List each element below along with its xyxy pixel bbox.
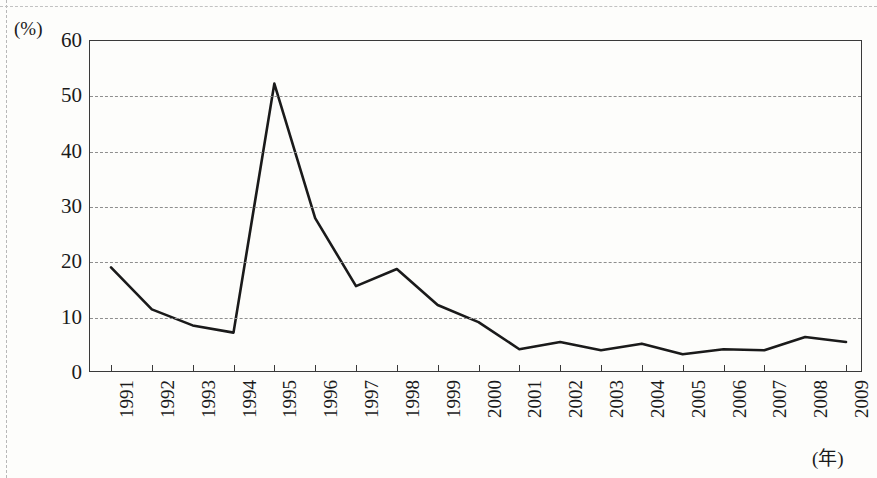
y-tick-label-30: 30 xyxy=(36,196,82,217)
x-tick-label-2004: 2004 xyxy=(648,380,667,418)
chart-page: (%) (年) 6050403020100 199119921993199419… xyxy=(0,0,877,478)
x-tick-label-1999: 1999 xyxy=(444,380,463,418)
gridline-20 xyxy=(90,262,861,263)
x-axis-unit-label: (年) xyxy=(812,443,844,470)
x-tick-label-2000: 2000 xyxy=(485,380,504,418)
y-tick-label-50: 50 xyxy=(36,85,82,106)
y-tick-label-0: 0 xyxy=(36,362,82,383)
x-tick-label-1992: 1992 xyxy=(158,380,177,418)
x-tick-2003 xyxy=(601,365,602,371)
x-tick-label-1997: 1997 xyxy=(362,380,381,418)
x-tick-label-1993: 1993 xyxy=(199,380,218,418)
x-tick-1992 xyxy=(152,365,153,371)
gridline-40 xyxy=(90,152,861,153)
x-tick-1991 xyxy=(111,365,112,371)
x-tick-label-1998: 1998 xyxy=(403,380,422,418)
plot-area xyxy=(89,40,862,372)
x-tick-label-1994: 1994 xyxy=(240,380,259,418)
y-tick-label-40: 40 xyxy=(36,140,82,161)
y-axis-tick-labels: 6050403020100 xyxy=(32,40,82,372)
x-tick-label-2003: 2003 xyxy=(607,380,626,418)
x-tick-label-1996: 1996 xyxy=(321,380,340,418)
x-tick-1993 xyxy=(193,365,194,371)
x-tick-label-1995: 1995 xyxy=(280,380,299,418)
y-tick-label-20: 20 xyxy=(36,251,82,272)
x-tick-label-2007: 2007 xyxy=(770,380,789,418)
x-tick-2006 xyxy=(724,365,725,371)
x-tick-1995 xyxy=(274,365,275,371)
x-tick-label-2006: 2006 xyxy=(730,380,749,418)
x-tick-label-1991: 1991 xyxy=(117,380,136,418)
x-tick-2001 xyxy=(519,365,520,371)
y-tick-label-10: 10 xyxy=(36,306,82,327)
x-tick-1996 xyxy=(315,365,316,371)
x-tick-label-2008: 2008 xyxy=(811,380,830,418)
x-tick-1998 xyxy=(397,365,398,371)
x-tick-label-2009: 2009 xyxy=(852,380,871,418)
scan-edge-top xyxy=(0,6,877,7)
x-tick-2005 xyxy=(683,365,684,371)
y-tick-label-60: 60 xyxy=(36,30,82,51)
gridline-50 xyxy=(90,96,861,97)
x-tick-2000 xyxy=(479,365,480,371)
gridline-10 xyxy=(90,318,861,319)
scan-edge-left xyxy=(6,0,7,478)
gridline-30 xyxy=(90,207,861,208)
x-tick-1994 xyxy=(234,365,235,371)
x-tick-2004 xyxy=(642,365,643,371)
x-tick-1997 xyxy=(356,365,357,371)
x-tick-label-2002: 2002 xyxy=(566,380,585,418)
x-tick-2008 xyxy=(805,365,806,371)
x-tick-2009 xyxy=(846,365,847,371)
x-tick-1999 xyxy=(438,365,439,371)
x-tick-2007 xyxy=(764,365,765,371)
x-tick-label-2001: 2001 xyxy=(525,380,544,418)
x-tick-2002 xyxy=(560,365,561,371)
x-axis-tick-labels: 1991199219931994199519961997199819992000… xyxy=(89,372,862,442)
x-tick-label-2005: 2005 xyxy=(689,380,708,418)
